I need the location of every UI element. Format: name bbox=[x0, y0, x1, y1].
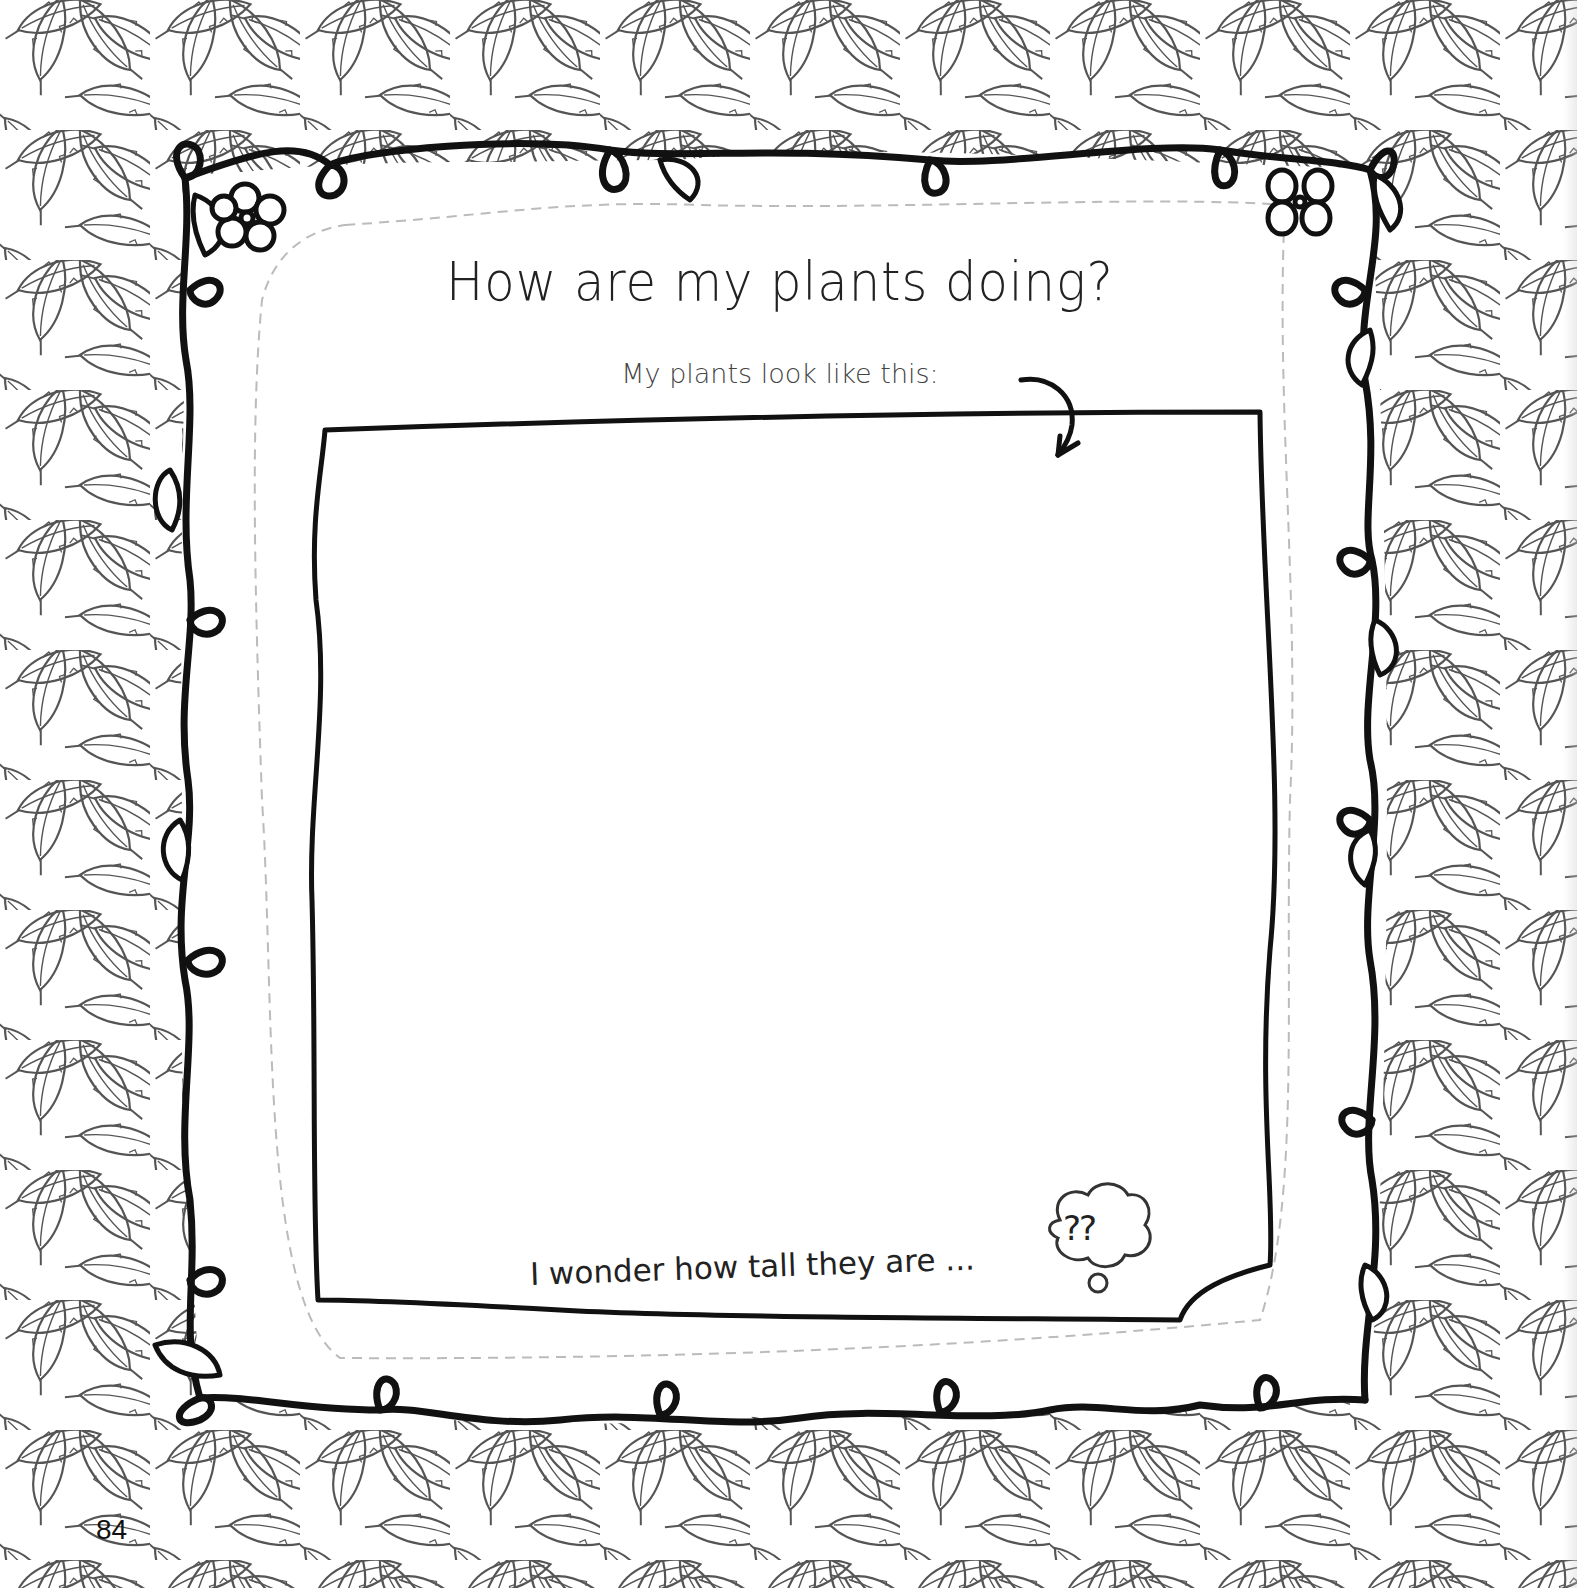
page-number: 84 bbox=[96, 1514, 127, 1546]
thought-bubble-text: ?? bbox=[1063, 1208, 1095, 1248]
activity-page: How are my plants doing? My plants look … bbox=[0, 0, 1577, 1588]
flower-top-left bbox=[212, 184, 284, 250]
page-title: How are my plants doing? bbox=[412, 250, 1148, 313]
drawing-area[interactable] bbox=[320, 420, 1270, 1300]
subtitle-text: My plants look like this: bbox=[560, 358, 1000, 389]
